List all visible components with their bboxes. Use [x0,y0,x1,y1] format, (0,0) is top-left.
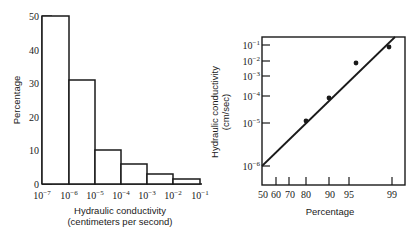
svg-text:10−5: 10−5 [86,189,104,201]
svg-text:10−4: 10−4 [243,90,261,102]
svg-text:10−2: 10−2 [164,189,182,201]
bar-2 [69,80,95,184]
svg-text:60: 60 [271,189,281,200]
svg-text:10−6: 10−6 [243,160,261,172]
svg-text:80: 80 [301,189,311,200]
svg-text:10−3: 10−3 [138,189,156,201]
svg-text:99: 99 [387,189,397,200]
svg-text:10−3: 10−3 [243,70,261,82]
svg-text:90: 90 [325,189,335,200]
y-axis-label: Hydraulic conductivity [209,66,220,158]
y-tick-20: 20 [29,112,39,123]
svg-text:10−1: 10−1 [243,39,261,51]
svg-text:70: 70 [285,189,295,200]
x-tick-labels: 50 60 70 80 90 95 99 [258,189,397,200]
y-tick-40: 40 [29,45,39,56]
svg-text:10−7: 10−7 [33,189,51,201]
histogram-bars [42,16,200,184]
svg-text:50: 50 [258,189,268,200]
y-tick-labels: 10−1 10−2 10−3 10−4 10−5 10−6 [243,39,261,172]
svg-text:10−2: 10−2 [243,55,261,67]
svg-text:10−6: 10−6 [60,189,78,201]
bar-6 [173,179,200,184]
y-axis-sublabel: (cm/sec) [220,94,231,130]
bar-5 [147,174,173,184]
x-tick-labels: 10−7 10−6 10−5 10−4 10−3 10−2 10−1 [33,189,209,201]
point-99 [387,45,392,50]
svg-text:10−4: 10−4 [112,189,130,201]
point-90 [327,96,332,101]
fit-line [262,37,395,166]
figure: 0 10 20 30 40 50 10−7 10−6 10−5 10−4 10−… [0,0,415,232]
svg-text:10−1: 10−1 [191,189,209,201]
y-tick-0: 0 [34,179,39,190]
svg-text:95: 95 [344,189,354,200]
svg-text:10−5: 10−5 [243,117,261,129]
bar-3 [95,150,121,184]
y-tick-50: 50 [29,11,39,22]
x-axis-label: Hydraulic conductivity [74,205,166,216]
y-tick-30: 30 [29,78,39,89]
point-96 [354,61,359,66]
probability-plot: 10−1 10−2 10−3 10−4 10−5 10−6 50 60 70 8… [209,37,405,217]
bar-4 [121,164,147,184]
y-axis-label: Percentage [11,76,22,125]
x-axis-sublabel: (centimeters per second) [67,216,172,227]
x-axis-label: Percentage [306,206,355,217]
point-80 [304,119,309,124]
y-tick-10: 10 [29,145,39,156]
bar-1 [42,16,69,184]
plot-frame [262,37,405,185]
histogram-chart: 0 10 20 30 40 50 10−7 10−6 10−5 10−4 10−… [11,11,209,227]
